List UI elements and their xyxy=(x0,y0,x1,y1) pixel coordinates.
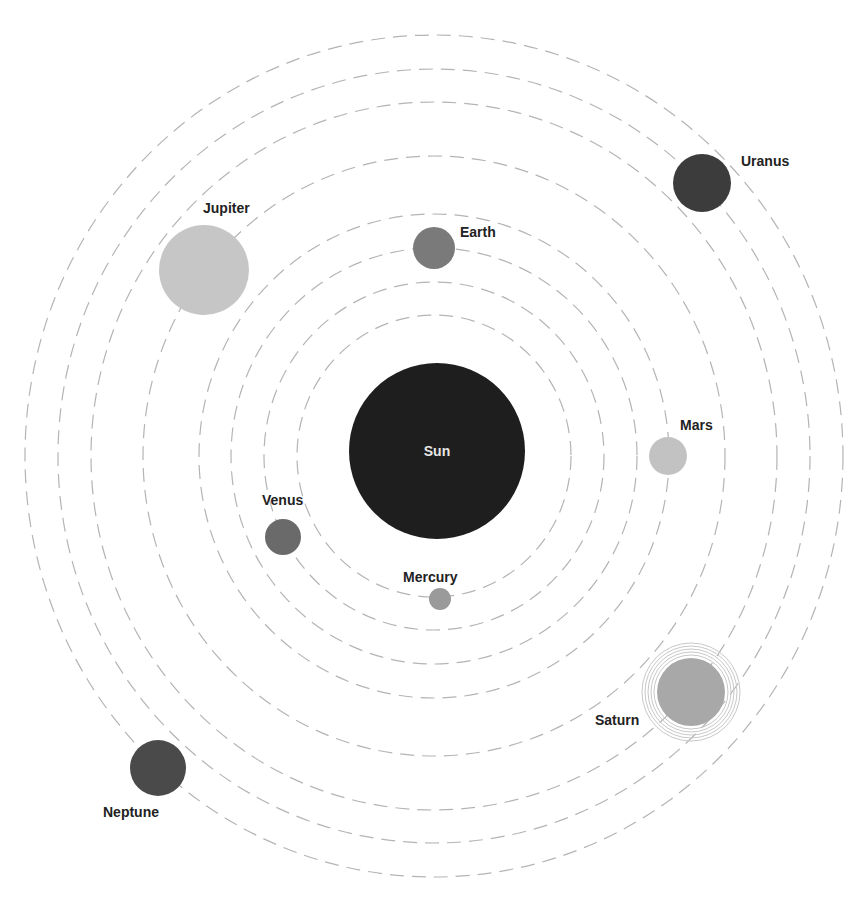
jupiter-body xyxy=(159,225,249,315)
planet-neptune: Neptune xyxy=(103,740,186,820)
solar-system-diagram: Sun MercuryVenusEarthMarsJupiterSaturnUr… xyxy=(0,0,866,902)
venus-body xyxy=(265,519,301,555)
planet-venus: Venus xyxy=(262,492,303,555)
planet-saturn: Saturn xyxy=(595,643,740,741)
planet-jupiter: Jupiter xyxy=(159,200,250,315)
earth-label: Earth xyxy=(460,224,496,240)
neptune-body xyxy=(130,740,186,796)
uranus-body xyxy=(673,154,731,212)
mars-label: Mars xyxy=(680,417,713,433)
planet-mercury: Mercury xyxy=(403,569,458,610)
venus-label: Venus xyxy=(262,492,303,508)
mars-body xyxy=(649,437,687,475)
mercury-label: Mercury xyxy=(403,569,458,585)
saturn-body xyxy=(657,658,725,726)
planet-mars: Mars xyxy=(649,417,713,475)
planet-earth: Earth xyxy=(413,224,496,269)
neptune-label: Neptune xyxy=(103,804,159,820)
jupiter-label: Jupiter xyxy=(203,200,250,216)
planet-uranus: Uranus xyxy=(673,153,789,212)
mercury-body xyxy=(429,588,451,610)
saturn-label: Saturn xyxy=(595,712,639,728)
sun: Sun xyxy=(349,363,525,539)
sun-label: Sun xyxy=(424,443,450,459)
uranus-label: Uranus xyxy=(741,153,789,169)
earth-body xyxy=(413,227,455,269)
